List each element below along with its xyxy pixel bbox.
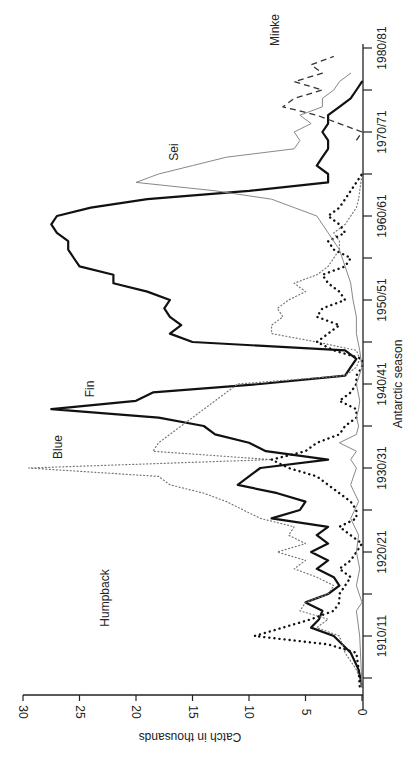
label-blue: Blue — [51, 435, 65, 459]
catch-tick-label: 5 — [299, 709, 313, 716]
season-tick-label: 1980/81 — [375, 26, 389, 70]
season-tick-label: 1960/61 — [375, 194, 389, 238]
season-tick-label: 1970/71 — [375, 110, 389, 154]
season-axis-ticks: 1910/111920/211930/311940/411950/511960/… — [363, 26, 389, 678]
label-sei: Sei — [167, 143, 181, 160]
label-fin: Fin — [83, 381, 97, 398]
series-lines — [29, 56, 362, 686]
series-blue — [29, 174, 362, 686]
catch-tick-label: 0 — [355, 709, 369, 716]
label-humpback: Humpback — [98, 568, 112, 626]
catch-tick-label: 25 — [73, 705, 87, 719]
season-tick-label: 1950/51 — [375, 278, 389, 322]
season-tick-label: 1930/31 — [375, 446, 389, 490]
label-minke: Minke — [268, 14, 282, 46]
catch-tick-label: 20 — [129, 705, 143, 719]
catch-tick-label: 30 — [16, 705, 30, 719]
catch-tick-label: 15 — [186, 705, 200, 719]
season-axis-title: Antarctic season — [391, 340, 405, 429]
catch-axis-title: Catch in thousands — [139, 730, 242, 744]
catch-axis-ticks: 051015202530 — [16, 695, 369, 719]
season-tick-label: 1920/21 — [375, 530, 389, 574]
series-humpback — [255, 174, 362, 686]
whale-catch-chart: 051015202530 1910/111920/211930/311940/4… — [0, 0, 420, 764]
season-tick-label: 1910/11 — [375, 614, 389, 657]
catch-tick-label: 10 — [242, 705, 256, 719]
season-tick-label: 1940/41 — [375, 362, 389, 406]
